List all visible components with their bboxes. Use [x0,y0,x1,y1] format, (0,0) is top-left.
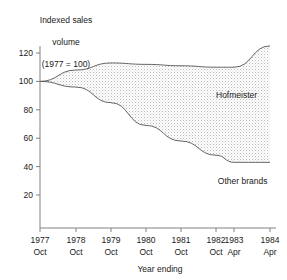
chart-plot: 20406080100120 1977Oct1978Oct1979Oct1980… [0,0,287,280]
x-tick-label-year: 1983 [225,235,244,245]
x-tick-label-month: Oct [209,247,223,257]
y-tick-label: 40 [24,162,34,172]
x-tick-label-year: 1981 [172,235,191,245]
x-tick-label-month: Oct [104,247,118,257]
y-tick-label: 120 [19,48,33,58]
y-tick-label: 100 [19,76,33,86]
other-brands-label: Other brands [218,176,268,186]
x-tick-label-month: Apr [227,247,240,257]
x-tick-label-month: Apr [263,247,276,257]
hofmeister-band [40,46,270,162]
y-tick-label: 60 [24,133,34,143]
y-tick-label: 20 [24,190,34,200]
hofmeister-label: Hofmeister [216,90,257,100]
x-tick-label-year: 1982 [207,235,226,245]
hofmeister-area [40,46,270,162]
y-axis-ticks: 20406080100120 [19,48,40,200]
x-axis-title: Year ending [137,264,182,274]
x-tick-label-month: Oct [69,247,83,257]
x-axis-ticks: 1977Oct1978Oct1979Oct1980Oct1981Oct1982O… [31,228,280,257]
y-tick-label: 80 [24,105,34,115]
x-tick-label-year: 1979 [102,235,121,245]
x-tick-label-month: Oct [174,247,188,257]
x-tick-label-year: 1978 [67,235,86,245]
chart-container: Indexed sales volume (1977 = 100) 204060… [0,0,287,280]
x-tick-label-month: Oct [139,247,153,257]
x-tick-label-year: 1984 [261,235,280,245]
x-tick-label-month: Oct [33,247,47,257]
x-tick-label-year: 1977 [31,235,50,245]
x-tick-label-year: 1980 [137,235,156,245]
